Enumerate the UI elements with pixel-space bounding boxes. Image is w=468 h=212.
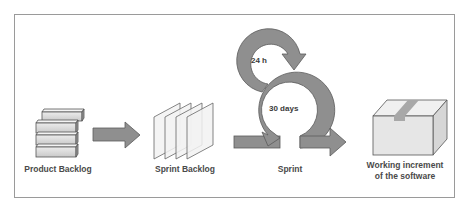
stacked-sheets-icon: [154, 103, 213, 159]
sprint-backlog-label: Sprint Backlog: [148, 164, 222, 175]
sprint-label: Sprint: [270, 164, 310, 175]
cycle-arrows-icon: [234, 29, 346, 156]
loop-label-30-days: 30 days: [269, 104, 298, 113]
loop-label-24h: 24 h: [251, 56, 267, 65]
increment-label-line2: of the software: [360, 171, 450, 182]
product-backlog-label: Product Backlog: [18, 164, 98, 175]
box-icon: [373, 100, 447, 155]
increment-label-line1: Working increment: [360, 160, 450, 171]
stacked-bars-icon: [36, 109, 84, 157]
right-arrow-icon: [93, 122, 140, 148]
